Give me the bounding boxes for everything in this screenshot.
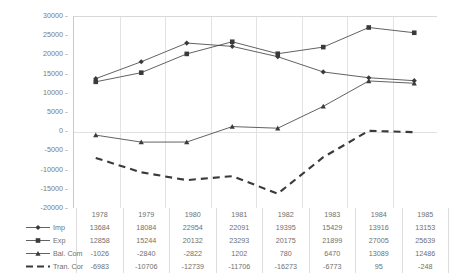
series-line (96, 81, 415, 142)
legend-label: Exp (53, 236, 65, 245)
y-axis-tick-mark (65, 35, 68, 36)
table-column-header: 1984 (356, 208, 403, 221)
table-cell: 12858 (77, 234, 124, 247)
y-axis-tick-label: 15000 (43, 70, 63, 77)
table-column-header: 1979 (123, 208, 170, 221)
data-point-marker (93, 80, 98, 85)
legend-entry: Bal. Com (25, 249, 76, 258)
table-cell: -2840 (123, 247, 170, 260)
legend-swatch-square-marker (25, 236, 51, 245)
table-cell: 27005 (356, 234, 403, 247)
table-cell: 6470 (309, 247, 356, 260)
legend-cell-imp: Imp (22, 221, 77, 234)
table-cell: 13089 (356, 247, 403, 260)
data-point-marker (321, 45, 326, 50)
data-table: 19781979198019811982198319841985 Imp1368… (22, 208, 449, 273)
legend-swatch-diamond-marker (25, 223, 51, 232)
y-axis-tick-mark (65, 189, 68, 190)
table-cell: -2822 (170, 247, 217, 260)
table-cell: 20175 (263, 234, 310, 247)
y-axis-tick-label: 20000 (43, 51, 63, 58)
y-axis-tick-mark (65, 112, 68, 113)
y-axis-tick-label: 0 (59, 128, 63, 135)
y-axis-tick-mark (65, 170, 68, 171)
table-cell: 22091 (216, 221, 263, 234)
data-point-marker (35, 225, 40, 230)
table-header: 19781979198019811982198319841985 (22, 208, 449, 221)
table-row: Exp1285815244201322329320175218992700525… (22, 234, 449, 247)
line-chart-with-data-table: 300002500020000150001000050000-5000-1000… (0, 0, 467, 280)
legend-cell-tran-cor: Tran. Cor (22, 260, 77, 273)
y-axis-tick-label: -5000 (45, 147, 63, 154)
y-axis-tick-label: 25000 (43, 32, 63, 39)
y-axis-tick-label: -10000 (41, 166, 63, 173)
legend-cell-bal-com: Bal. Com (22, 247, 77, 260)
data-point-marker (321, 104, 326, 109)
table-row: Bal. Com-1026-2840-282212027806470130891… (22, 247, 449, 260)
data-point-marker (366, 25, 371, 30)
table-cell: 19395 (263, 221, 310, 234)
data-point-marker (184, 52, 189, 57)
legend-label: Imp (53, 223, 65, 232)
table-cell: 23293 (216, 234, 263, 247)
table-cell: 95 (356, 260, 403, 273)
series-exp (93, 25, 416, 84)
legend-swatch-dashed-line (25, 262, 51, 271)
table-row: Tran. Cor-6983-10706-12739-11706-16273-6… (22, 260, 449, 273)
data-point-marker (184, 40, 189, 45)
table-cell: 20132 (170, 234, 217, 247)
table-cell: -6773 (309, 260, 356, 273)
y-axis-tick-label: 30000 (43, 12, 63, 19)
table-cell: 780 (263, 247, 310, 260)
y-axis-tick-mark (65, 150, 68, 151)
table-cell: 25639 (402, 234, 449, 247)
y-axis-tick-mark (65, 131, 68, 132)
plot-wrapper (73, 16, 437, 208)
table-header-row: 19781979198019811982198319841985 (22, 208, 449, 221)
table-cell: 13916 (356, 221, 403, 234)
legend-entry: Imp (25, 223, 76, 232)
table-cell: 12486 (402, 247, 449, 260)
table-cell: 13153 (402, 221, 449, 234)
table-cell: 21899 (309, 234, 356, 247)
y-axis: 300002500020000150001000050000-5000-1000… (0, 16, 68, 208)
data-point-marker (139, 70, 144, 75)
legend-label: Bal. Com (53, 249, 83, 258)
data-point-marker (36, 238, 41, 243)
series-tran-cor (96, 131, 415, 194)
y-axis-tick-label: 10000 (43, 89, 63, 96)
table-column-header: 1982 (263, 208, 310, 221)
plot-series-layer (73, 16, 437, 208)
y-axis-tick-label: -15000 (41, 185, 63, 192)
data-point-marker (230, 39, 235, 44)
data-point-marker (412, 30, 417, 35)
table-cell: -12739 (170, 260, 217, 273)
y-axis-tick-mark (65, 74, 68, 75)
table-row: Imp1368418084229542209119395154291391613… (22, 221, 449, 234)
table-cell: -16273 (263, 260, 310, 273)
legend-entry: Exp (25, 236, 76, 245)
table-cell: -6983 (77, 260, 124, 273)
table-cell: 15244 (123, 234, 170, 247)
table-cell: -11706 (216, 260, 263, 273)
table-corner-cell (22, 208, 77, 221)
data-point-marker (321, 69, 326, 74)
table-cell: -10706 (123, 260, 170, 273)
legend-swatch-triangle-marker (25, 249, 51, 258)
table-column-header: 1978 (77, 208, 124, 221)
table-cell: 1202 (216, 247, 263, 260)
y-axis-tick-label: 5000 (47, 108, 63, 115)
table-cell: 18084 (123, 221, 170, 234)
y-axis-tick-mark (65, 54, 68, 55)
table-column-header: 1985 (402, 208, 449, 221)
data-point-marker (230, 44, 235, 49)
legend-entry: Tran. Cor (25, 262, 76, 271)
series-imp (93, 40, 417, 83)
data-point-marker (139, 59, 144, 64)
table-column-header: 1981 (216, 208, 263, 221)
series-line (96, 131, 415, 194)
table-body: Imp1368418084229542209119395154291391613… (22, 221, 449, 273)
table-column-header: 1980 (170, 208, 217, 221)
table-cell: 15429 (309, 221, 356, 234)
table-cell: 22954 (170, 221, 217, 234)
